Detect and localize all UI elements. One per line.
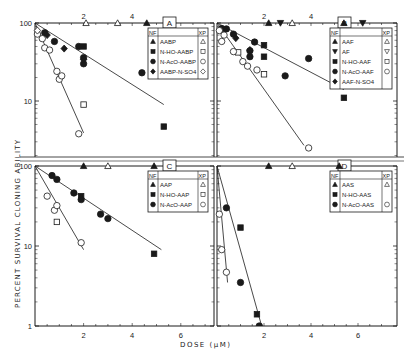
svg-text:NF: NF <box>149 30 157 36</box>
svg-text:AAF: AAF <box>342 39 354 45</box>
svg-text:AF: AF <box>342 49 350 55</box>
svg-text:AAP: AAP <box>160 182 172 188</box>
x-tick-label: 4 <box>130 331 134 340</box>
x-axis-label: DOSE (μM) <box>180 341 231 349</box>
panel-label: A <box>167 19 173 28</box>
svg-text:AAF-N-SO4: AAF-N-SO4 <box>342 79 375 85</box>
legend-a: NFXPAABPN-HO-AABPN-AcO-AABPAABP-N-SO4 <box>148 28 208 79</box>
panel-b: 24BNFXPAAFAFN-HO-AAFN-AcO-AAFAAF-N-SO4 <box>216 12 397 157</box>
y-tick-label: 10 <box>24 242 32 251</box>
svg-text:N-AcO-AAF: N-AcO-AAF <box>342 69 374 75</box>
y-tick-label: 10 <box>24 97 32 106</box>
svg-text:XP: XP <box>383 30 391 36</box>
svg-text:AABP-N-SO4: AABP-N-SO4 <box>160 69 197 75</box>
legend-d: NFXPAASN-HO-AASN-AcO-AAS <box>330 171 392 212</box>
svg-text:N-AcO-AAS: N-AcO-AAS <box>342 202 374 208</box>
y-axis-label-text: PERCENT SURVIVAL CLONING ABILITY <box>14 139 22 308</box>
svg-text:NF: NF <box>149 173 157 179</box>
svg-text:N-HO-AAS: N-HO-AAS <box>342 192 371 198</box>
svg-text:N-HO-AAF: N-HO-AAF <box>342 59 371 65</box>
svg-text:N-HO-AABP: N-HO-AABP <box>160 49 193 55</box>
svg-text:NF: NF <box>331 173 339 179</box>
svg-text:N-AcO-AAP: N-AcO-AAP <box>160 202 192 208</box>
svg-text:NF: NF <box>331 30 339 36</box>
fit-line-xp <box>217 23 304 145</box>
panel-label: C <box>167 162 173 171</box>
x-tick-label: 4 <box>309 331 313 340</box>
x-tick-label: 4 <box>130 12 134 21</box>
x-tick-label: 6 <box>179 331 183 340</box>
svg-text:AABP: AABP <box>160 39 176 45</box>
y-axis-label: PERCENT SURVIVAL CLONING ABILITY <box>2 58 14 318</box>
panel-d: 246DNFXPAASN-HO-AASN-AcO-AAS <box>216 160 397 340</box>
svg-text:XP: XP <box>199 173 207 179</box>
fit-line-nf <box>35 23 164 105</box>
panel-c: 246110100CNFXPAAPN-HO-AAPN-AcO-AAP <box>19 160 214 340</box>
svg-text:N-HO-AAP: N-HO-AAP <box>160 192 189 198</box>
legend-c: NFXPAAPN-HO-AAPN-AcO-AAP <box>148 171 208 212</box>
x-tick-label: 4 <box>309 12 313 21</box>
panel-label: D <box>342 162 348 171</box>
y-tick-label: 1 <box>28 322 32 331</box>
svg-text:XP: XP <box>383 173 391 179</box>
panel-a: 2410100ANFXPAABPN-HO-AABPN-AcO-AABPAABP-… <box>19 12 214 157</box>
legend-b: NFXPAAFAFN-HO-AAFN-AcO-AAFAAF-N-SO4 <box>330 28 392 89</box>
x-tick-label: 2 <box>262 12 266 21</box>
survival-figure: 2410100ANFXPAABPN-HO-AABPN-AcO-AABPAABP-… <box>0 0 411 355</box>
y-tick-label: 100 <box>19 19 32 28</box>
x-tick-label: 2 <box>82 12 86 21</box>
x-tick-label: 6 <box>356 331 360 340</box>
x-tick-label: 2 <box>82 331 86 340</box>
x-tick-label: 2 <box>262 331 266 340</box>
svg-text:XP: XP <box>199 30 207 36</box>
svg-text:AAS: AAS <box>342 182 354 188</box>
fit-line-nf <box>217 166 262 326</box>
svg-text:N-AcO-AABP: N-AcO-AABP <box>160 59 196 65</box>
